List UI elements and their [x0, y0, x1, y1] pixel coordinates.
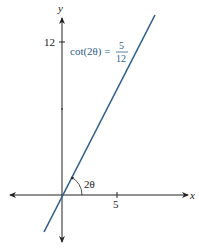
y-tick-label-12: 12 [44, 36, 55, 48]
y-axis-label: y [57, 2, 63, 14]
angle-label: 2θ [84, 178, 95, 190]
diagram: y x 12 5 2θ cot(2θ) = 5 12 [0, 0, 199, 248]
x-axis-label: x [189, 189, 195, 201]
equation-lhs: cot(2θ) = [70, 45, 111, 58]
equation-denominator: 12 [116, 53, 126, 64]
angle-arc [71, 177, 82, 195]
x-tick-label-5: 5 [113, 198, 119, 210]
equation-numerator: 5 [119, 40, 124, 51]
